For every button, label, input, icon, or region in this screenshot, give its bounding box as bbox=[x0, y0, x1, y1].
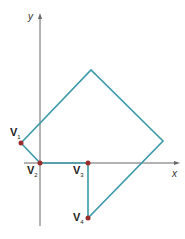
vertex-v4-dot bbox=[86, 216, 91, 221]
vertex-v2-dot bbox=[38, 161, 43, 166]
x-axis-label: x bbox=[172, 168, 177, 179]
vertex-label-v1: V1 bbox=[10, 126, 21, 140]
x-axis-arrow-icon bbox=[174, 161, 180, 165]
y-axis-label: y bbox=[28, 11, 33, 22]
vertex-v3-dot bbox=[86, 161, 91, 166]
vertex-v1-dot bbox=[19, 141, 24, 146]
y-axis-arrow-icon bbox=[38, 13, 42, 19]
diagram-canvas bbox=[0, 0, 185, 239]
vertex-label-v2: V2 bbox=[27, 164, 38, 178]
vertex-label-v4: V4 bbox=[73, 211, 84, 225]
vertex-label-v3: V3 bbox=[73, 164, 84, 178]
polygon-outline bbox=[21, 70, 163, 218]
